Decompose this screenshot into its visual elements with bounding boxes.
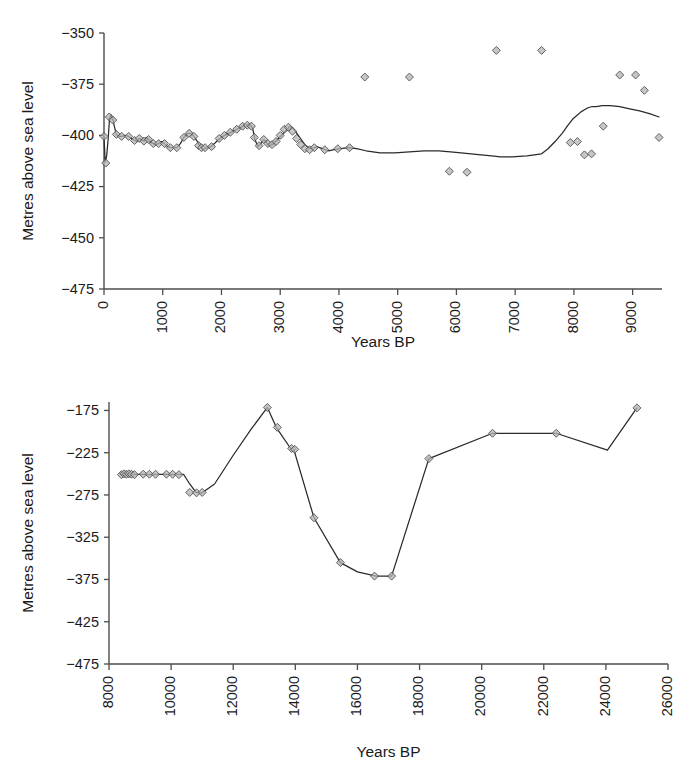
y-tick-label: −475: [61, 281, 94, 297]
data-point-marker: [336, 559, 344, 567]
x-tick-label: 2000: [212, 301, 228, 333]
y-tick-label: −450: [61, 230, 94, 246]
data-point-marker: [175, 471, 183, 479]
data-point-marker: [580, 151, 588, 159]
data-point-marker: [321, 146, 329, 154]
data-point-marker: [361, 73, 369, 81]
y-axis-title: Metres above sea level: [19, 453, 36, 612]
x-tick-label: 0: [95, 301, 111, 309]
x-tick-label: 5000: [389, 301, 405, 333]
chart-panel-top: −350−375−400−425−450−4750100020003000400…: [0, 0, 693, 360]
data-point-marker: [198, 488, 206, 496]
data-point-marker: [632, 71, 640, 79]
x-tick-label: 14000: [286, 676, 302, 716]
data-point-marker: [588, 150, 596, 158]
data-point-marker: [371, 572, 379, 580]
data-point-marker: [152, 470, 160, 478]
data-point-marker: [334, 145, 342, 153]
data-point-marker: [445, 167, 453, 175]
data-point-marker: [573, 138, 581, 146]
x-tick-label: 8000: [565, 301, 581, 333]
x-tick-label: 4000: [330, 301, 346, 333]
data-point-marker: [388, 572, 396, 580]
data-point-marker: [250, 133, 258, 141]
x-tick-label: 10000: [162, 676, 178, 716]
data-point-marker: [640, 86, 648, 94]
data-point-marker: [405, 73, 413, 81]
data-point-marker: [102, 159, 110, 167]
data-point-marker: [616, 71, 624, 79]
data-point-marker: [425, 455, 433, 463]
data-point-marker: [489, 429, 497, 437]
y-tick-label: −350: [61, 25, 94, 41]
x-tick-label: 12000: [224, 676, 240, 716]
y-tick-label: −275: [66, 487, 99, 503]
data-point-marker: [538, 46, 546, 54]
y-tick-label: −225: [66, 445, 99, 461]
x-tick-label: 3000: [271, 301, 287, 333]
data-point-marker: [463, 168, 471, 176]
x-tick-label: 22000: [535, 676, 551, 716]
data-point-marker: [552, 429, 560, 437]
data-point-marker: [599, 122, 607, 130]
data-point-marker: [655, 133, 663, 141]
y-tick-label: −375: [66, 571, 99, 587]
bottom-chart-svg: −175−225−275−325−375−425−475800010000120…: [0, 372, 693, 772]
x-tick-label: 26000: [659, 676, 675, 716]
x-tick-label: 1000: [154, 301, 170, 333]
y-tick-label: −400: [61, 127, 94, 143]
y-axis-title: Metres above sea level: [19, 81, 36, 240]
data-point-marker: [293, 134, 301, 142]
y-tick-label: −175: [66, 402, 99, 418]
x-tick-label: 20000: [472, 676, 488, 716]
data-point-marker: [310, 514, 318, 522]
data-point-marker: [566, 139, 574, 147]
data-point-marker: [346, 144, 354, 152]
data-point-marker: [276, 131, 284, 139]
x-tick-label: 8000: [100, 676, 116, 708]
chart-panel-bottom: −175−225−275−325−375−425−475800010000120…: [0, 372, 693, 772]
x-tick-label: 6000: [447, 301, 463, 333]
data-point-marker: [100, 132, 108, 140]
x-tick-label: 24000: [597, 676, 613, 716]
x-tick-label: 9000: [623, 301, 639, 333]
y-tick-label: −425: [66, 614, 99, 630]
x-axis-title: Years BP: [356, 743, 420, 760]
x-tick-label: 7000: [506, 301, 522, 333]
y-tick-label: −325: [66, 529, 99, 545]
top-chart-svg: −350−375−400−425−450−4750100020003000400…: [0, 0, 693, 360]
data-point-marker: [633, 404, 641, 412]
x-tick-label: 18000: [410, 676, 426, 716]
y-tick-label: −425: [61, 178, 94, 194]
x-tick-label: 16000: [348, 676, 364, 716]
figure-container: −350−375−400−425−450−4750100020003000400…: [0, 0, 693, 772]
y-tick-label: −475: [66, 656, 99, 672]
y-tick-label: −375: [61, 76, 94, 92]
data-point-marker: [492, 46, 500, 54]
x-axis-title: Years BP: [351, 333, 415, 350]
